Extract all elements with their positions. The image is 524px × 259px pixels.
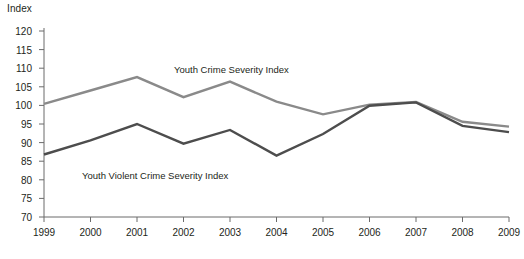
x-tick-label: 2008 (441, 227, 485, 238)
x-tick-label: 2007 (394, 227, 438, 238)
series-line-youth-violent-crime-severity-index (44, 102, 509, 155)
axis-lines (44, 28, 509, 217)
series-label-youth-crime-severity-index: Youth Crime Severity Index (174, 64, 289, 75)
x-tick-label: 2009 (487, 227, 524, 238)
x-tick-label: 2003 (208, 227, 252, 238)
x-tick-label: 1999 (22, 227, 66, 238)
x-tick-label: 2005 (301, 227, 345, 238)
x-tick-label: 2004 (255, 227, 299, 238)
x-tick-label: 2006 (348, 227, 392, 238)
series-label-youth-violent-crime-severity-index: Youth Violent Crime Severity Index (82, 170, 228, 181)
chart-plot-area (0, 0, 524, 259)
x-tick-label: 2002 (162, 227, 206, 238)
y-axis-ticks (39, 31, 44, 217)
x-axis-ticks (44, 217, 509, 222)
youth-crime-severity-index-chart: Index 120 115 110 105 100 95 90 85 80 75… (0, 0, 524, 259)
series-line-youth-crime-severity-index (44, 77, 509, 126)
x-tick-label: 2001 (115, 227, 159, 238)
x-tick-label: 2000 (69, 227, 113, 238)
